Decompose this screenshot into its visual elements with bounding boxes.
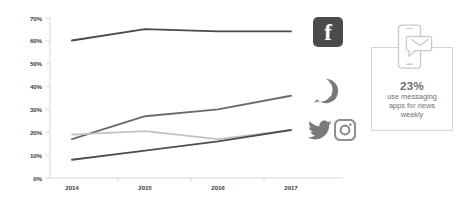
messaging-apps-callout: 23% use messaging apps for news weekly	[371, 47, 453, 131]
whatsapp-icon	[313, 78, 339, 104]
x-tick-label: 2014	[52, 184, 92, 191]
phone-message-glyph	[390, 24, 434, 70]
instagram-icon	[334, 119, 356, 141]
callout-description-line2: apps for news	[372, 101, 452, 110]
series-line-facebook	[72, 29, 291, 40]
facebook-icon: f	[313, 17, 343, 47]
y-tick-label: 70%	[16, 15, 42, 22]
y-tick-label: 50%	[16, 60, 42, 67]
twitter-bird-glyph	[308, 120, 332, 140]
x-tick-label: 2015	[125, 184, 165, 191]
whatsapp-glyph	[313, 78, 339, 104]
y-tick-label: 10%	[16, 152, 42, 159]
y-tick-label: 40%	[16, 83, 42, 90]
y-tick-marks	[46, 18, 50, 178]
callout-description-line3: weekly	[372, 110, 452, 119]
chart-canvas	[0, 0, 350, 201]
callout-description-line1: use messaging	[372, 92, 452, 101]
instagram-camera-glyph	[334, 119, 356, 141]
facebook-f-glyph: f	[313, 17, 343, 47]
x-tick-marks	[118, 178, 264, 182]
y-tick-label: 60%	[16, 37, 42, 44]
x-tick-label: 2016	[198, 184, 238, 191]
phone-message-icon	[390, 24, 434, 74]
twitter-icon	[308, 120, 332, 140]
y-tick-label: 0%	[16, 175, 42, 182]
callout-stat: 23%	[372, 80, 452, 92]
social-media-news-line-chart: 70% 60% 50% 40% 30% 20% 10% 0% 2014 2015…	[0, 0, 465, 201]
y-tick-label: 30%	[16, 106, 42, 113]
y-tick-label: 20%	[16, 129, 42, 136]
plot-area: 70% 60% 50% 40% 30% 20% 10% 0% 2014 2015…	[0, 0, 350, 201]
x-tick-label: 2017	[271, 184, 311, 191]
